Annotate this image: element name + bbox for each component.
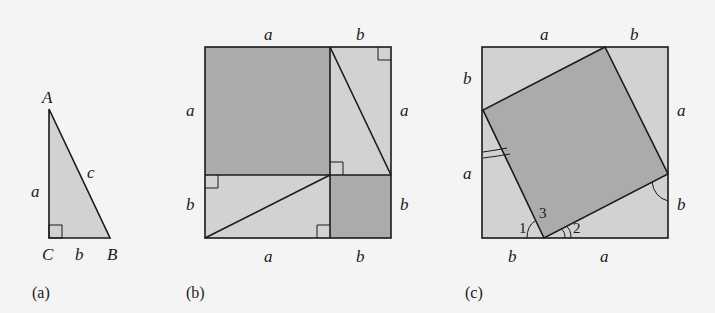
pythagorean-diagram: A C B a b c (a) a b a b a b a b (b) bbox=[0, 0, 715, 313]
right-label-b: b bbox=[677, 195, 686, 214]
vertex-a-label: A bbox=[41, 88, 53, 107]
right-label-a: a bbox=[677, 101, 686, 120]
right-label-b: b bbox=[400, 195, 409, 214]
panel-a-right-triangle: A C B a b c (a) bbox=[31, 88, 118, 302]
top-label-b: b bbox=[356, 25, 365, 44]
top-label-b: b bbox=[630, 25, 639, 44]
vertex-c-label: C bbox=[42, 245, 54, 264]
angle-1-label: 1 bbox=[519, 220, 527, 236]
angle-2-label: 2 bbox=[573, 220, 581, 236]
left-label-a: a bbox=[463, 164, 472, 183]
caption-c: (c) bbox=[465, 284, 483, 302]
bottom-label-a: a bbox=[264, 247, 273, 266]
right-label-a: a bbox=[400, 101, 409, 120]
panel-c-tilted-square: 1 2 3 a b b a b a a b (c) bbox=[463, 25, 686, 302]
top-label-a: a bbox=[264, 25, 273, 44]
top-label-a: a bbox=[540, 25, 549, 44]
caption-a: (a) bbox=[32, 284, 50, 302]
angle-3-label: 3 bbox=[539, 205, 547, 221]
vertex-b-label: B bbox=[107, 245, 118, 264]
bottom-label-a: a bbox=[600, 247, 609, 266]
left-label-a: a bbox=[186, 101, 195, 120]
bottom-label-b: b bbox=[356, 247, 365, 266]
bottom-label-b: b bbox=[508, 247, 517, 266]
side-a-label: a bbox=[31, 182, 40, 201]
panel-b-rearranged-square: a b a b a b a b (b) bbox=[186, 25, 409, 302]
side-c-label: c bbox=[87, 163, 95, 182]
left-label-b: b bbox=[186, 195, 195, 214]
left-label-b: b bbox=[463, 69, 472, 88]
side-b-label: b bbox=[75, 245, 84, 264]
caption-b: (b) bbox=[186, 284, 205, 302]
